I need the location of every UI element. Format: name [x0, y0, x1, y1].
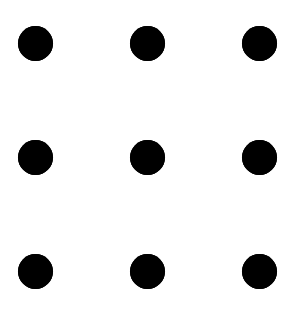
dot-r1-c1: [18, 26, 53, 61]
dot-r3-c3: [242, 254, 277, 289]
dot-r1-c3: [242, 26, 277, 61]
dot-r3-c1: [18, 254, 53, 289]
dot-r2-c2: [130, 140, 165, 175]
dot-r1-c2: [130, 26, 165, 61]
dot-grid-diagram: [0, 0, 291, 310]
dot-r3-c2: [130, 254, 165, 289]
dot-r2-c1: [18, 140, 53, 175]
dot-r2-c3: [242, 140, 277, 175]
